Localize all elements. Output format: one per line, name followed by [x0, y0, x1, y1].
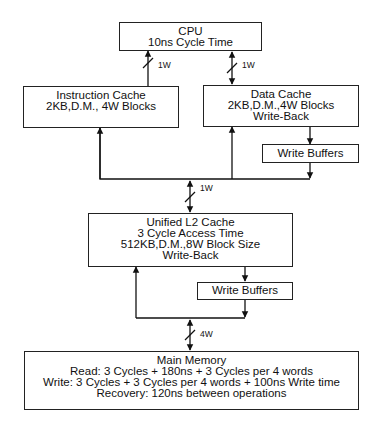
write-buffers-title: Write Buffers: [263, 148, 358, 159]
write-buffers-title: Write Buffers: [198, 285, 292, 296]
bus-width-label: 4W: [200, 329, 213, 339]
l2-line: Write-Back: [89, 250, 292, 261]
cpu-line: 10ns Cycle Time: [120, 37, 261, 48]
write-buffers-l2-box: Write Buffers: [197, 282, 293, 300]
dcache-line: Write-Back: [204, 111, 358, 122]
bus-width-label: 1W: [242, 60, 255, 70]
l2-cache-box: Unified L2 Cache 3 Cycle Access Time 512…: [88, 213, 293, 267]
memory-line: Recovery: 120ns between operations: [25, 388, 358, 399]
main-memory-box: Main Memory Read: 3 Cycles + 180ns + 3 C…: [24, 351, 359, 410]
data-cache-box: Data Cache 2KB,D.M.,4W Blocks Write-Back: [203, 85, 359, 127]
bus-width-label: 1W: [200, 183, 213, 193]
instruction-cache-box: Instruction Cache 2KB,D.M., 4W Blocks: [23, 86, 179, 128]
bus-width-label: 1W: [158, 60, 171, 70]
write-buffers-l1-box: Write Buffers: [262, 144, 359, 163]
cpu-box: CPU 10ns Cycle Time: [119, 22, 262, 51]
icache-line: 2KB,D.M., 4W Blocks: [24, 101, 178, 112]
